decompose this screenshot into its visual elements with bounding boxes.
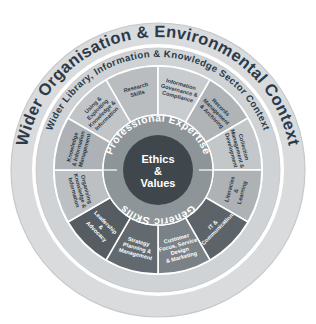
- core-label-line3: Values: [141, 177, 176, 189]
- core-label-line1: Ethics: [141, 153, 174, 165]
- core-label-line2: &: [154, 165, 162, 177]
- wheel-svg: Wider Organisation & Environmental Conte…: [0, 0, 316, 324]
- pksb-wheel-diagram: Wider Organisation & Environmental Conte…: [0, 0, 316, 324]
